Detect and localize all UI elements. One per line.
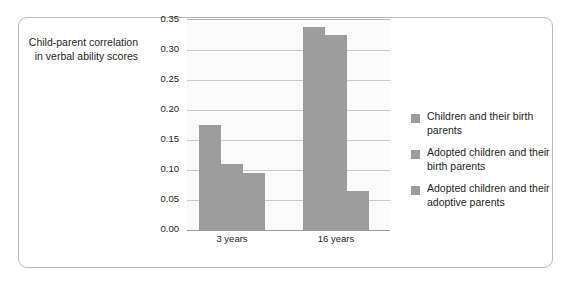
legend-item-label: Adopted children and their adoptive pare… — [427, 182, 559, 209]
legend-item: Adopted children and their birth parents — [411, 146, 559, 173]
bar — [221, 164, 243, 230]
x-axis-label-1: 16 years — [318, 233, 354, 245]
y-axis-tick-label: 0.25 — [161, 74, 180, 84]
y-axis-tick-label: 0.05 — [161, 194, 180, 204]
y-axis-title: Child-parent correlation in verbal abili… — [6, 36, 138, 63]
plot-area — [187, 19, 390, 231]
bar-group-16-years — [303, 20, 369, 230]
bar — [347, 191, 369, 230]
y-axis-title-line-2: in verbal ability scores — [6, 50, 138, 64]
y-axis-tick-label: 0.15 — [161, 134, 180, 144]
legend-swatch-icon — [411, 114, 420, 123]
bar — [199, 125, 221, 230]
legend-item-label: Adopted children and their birth parents — [427, 146, 559, 173]
y-axis-title-line-1: Child-parent correlation — [6, 36, 138, 50]
legend-swatch-icon — [411, 186, 420, 195]
legend-item-label: Children and their birth parents — [427, 110, 559, 137]
legend-swatch-icon — [411, 150, 420, 159]
x-axis-label-0: 3 years — [216, 233, 247, 245]
y-axis-tick-label: 0.35 — [161, 14, 180, 24]
legend-item: Adopted children and their adoptive pare… — [411, 182, 559, 209]
y-axis-tick-label: 0.20 — [161, 104, 180, 114]
plot-wrapper: 0.350.300.250.200.150.100.050.00 3 years… — [140, 19, 390, 251]
chart-legend: Children and their birth parentsAdopted … — [411, 110, 559, 218]
y-axis-tick-label: 0.30 — [161, 44, 180, 54]
bar-group-3-years — [199, 20, 265, 230]
bar — [325, 35, 347, 230]
bar — [303, 27, 325, 230]
y-axis-tick-labels: 0.350.300.250.200.150.100.050.00 — [140, 19, 183, 229]
x-axis-category-labels: 3 years 16 years — [187, 233, 390, 249]
bar — [243, 173, 265, 230]
y-axis-tick-label: 0.00 — [161, 224, 180, 234]
legend-item: Children and their birth parents — [411, 110, 559, 137]
y-axis-tick-label: 0.10 — [161, 164, 180, 174]
